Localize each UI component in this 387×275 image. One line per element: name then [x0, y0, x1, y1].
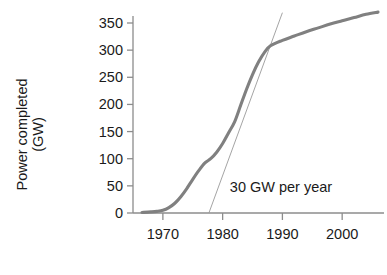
y-tick-label: 200 — [99, 96, 123, 112]
slope-annotation-text: 30 GW per year — [230, 179, 333, 195]
y-tick-label: 0 — [115, 205, 123, 221]
x-tick-label: 1970 — [147, 226, 179, 242]
y-tick-label: 150 — [99, 124, 123, 140]
y-tick-label: 50 — [107, 178, 123, 194]
x-tick-label: 1990 — [266, 226, 298, 242]
chart-canvas: 050100150200250300350 1970198019902000 3… — [0, 0, 387, 275]
y-tick-label: 350 — [99, 15, 123, 31]
x-tick-group: 1970198019902000 — [147, 213, 359, 242]
y-tick-group: 050100150200250300350 — [99, 15, 133, 221]
chart-figure: Power completed (GW) 0501001502002503003… — [0, 0, 387, 275]
x-tick-label: 1980 — [207, 226, 239, 242]
y-tick-label: 100 — [99, 151, 123, 167]
y-tick-label: 250 — [99, 69, 123, 85]
x-tick-label: 2000 — [326, 226, 358, 242]
y-tick-label: 300 — [99, 42, 123, 58]
